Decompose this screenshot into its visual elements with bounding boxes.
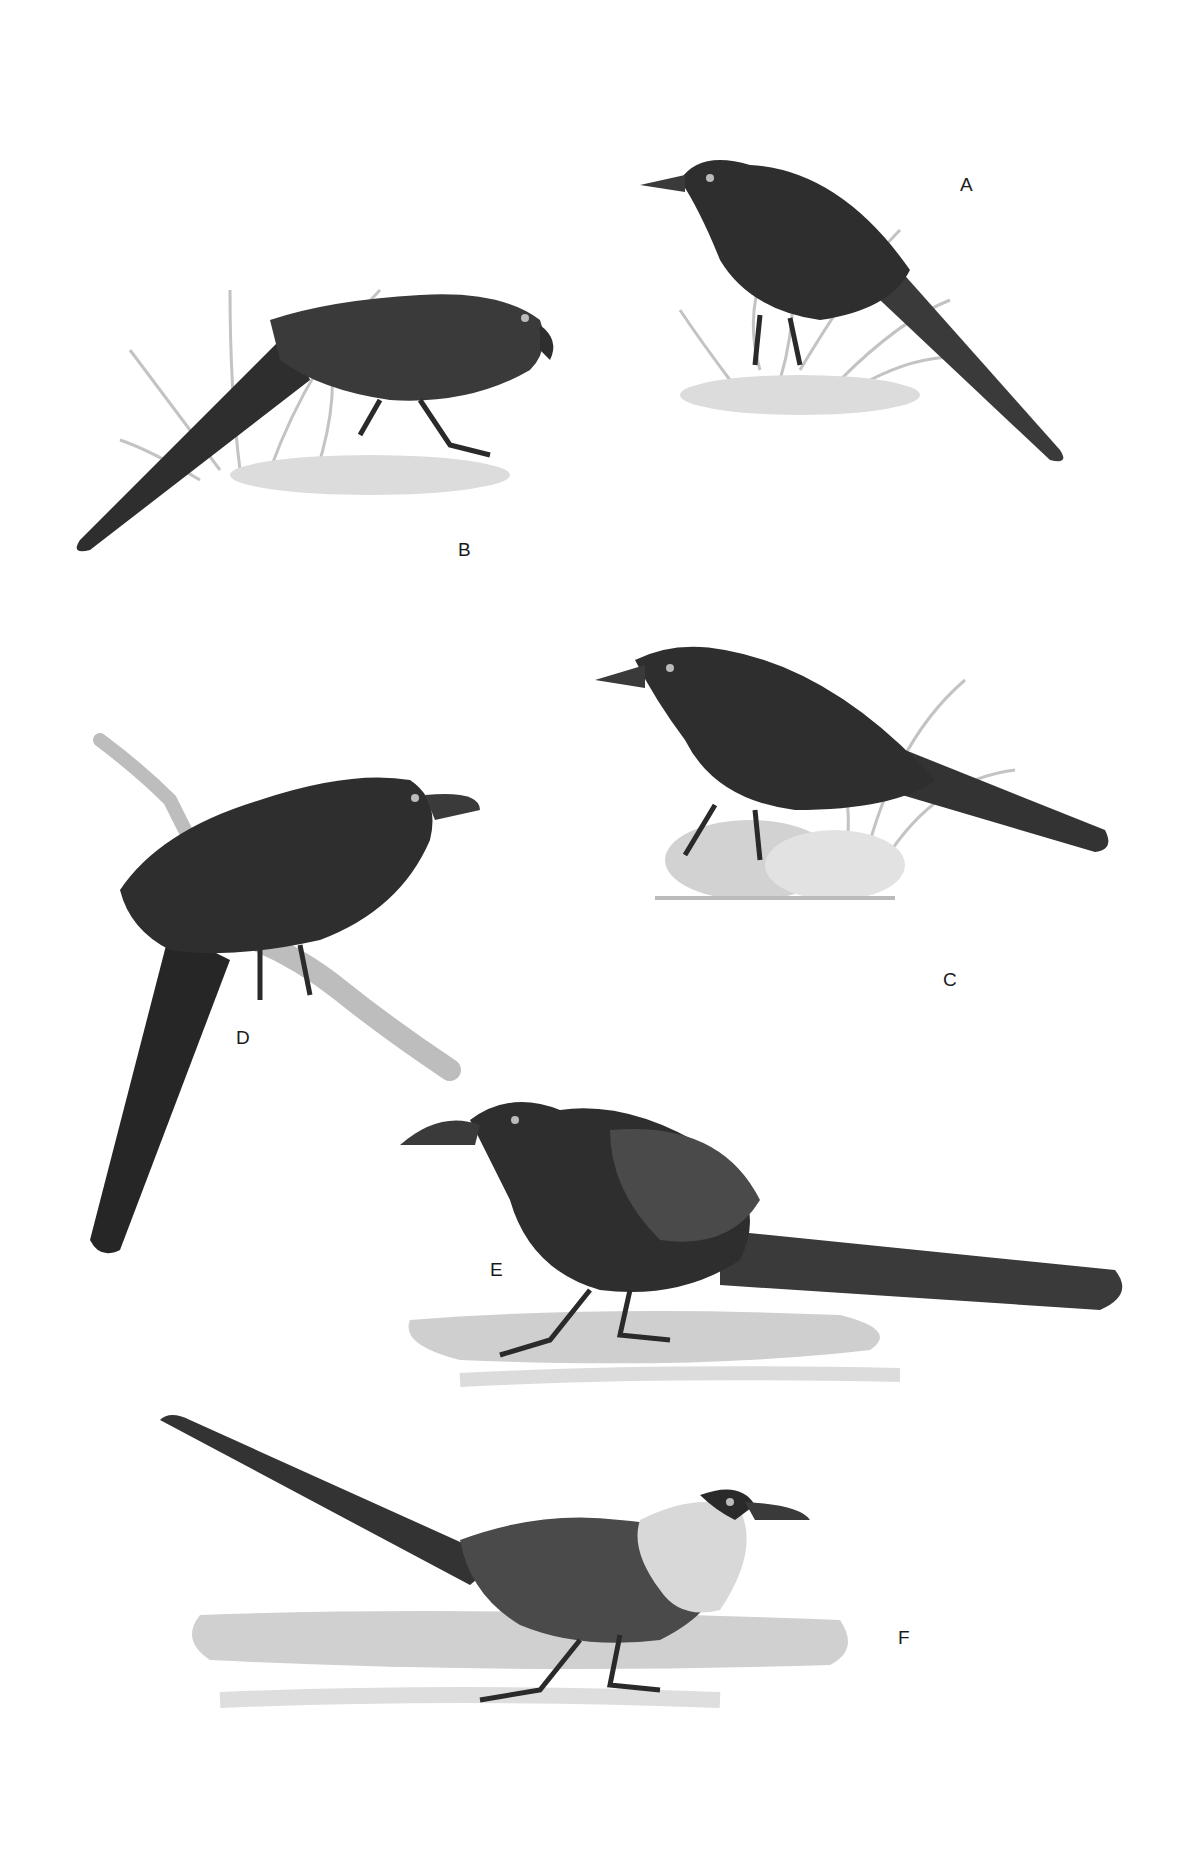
bird-f-illustration xyxy=(160,1410,920,1760)
figure-label-d: D xyxy=(236,1028,250,1047)
figure-c: C xyxy=(595,640,1125,1000)
figure-label-a: A xyxy=(960,175,973,194)
figure-b: B xyxy=(70,270,590,570)
bird-a-illustration xyxy=(640,120,1110,470)
figure-label-e: E xyxy=(490,1260,503,1279)
illustration-plate: A B xyxy=(0,0,1200,1853)
figure-label-c: C xyxy=(943,970,957,989)
figure-f: F xyxy=(160,1410,920,1760)
figure-a: A xyxy=(640,120,1110,470)
figure-e: E xyxy=(400,1070,1130,1400)
figure-label-b: B xyxy=(458,540,471,559)
bird-c-illustration xyxy=(595,640,1125,1000)
bird-e-illustration xyxy=(400,1070,1130,1400)
bird-b-illustration xyxy=(70,270,590,570)
figure-label-f: F xyxy=(898,1628,910,1647)
